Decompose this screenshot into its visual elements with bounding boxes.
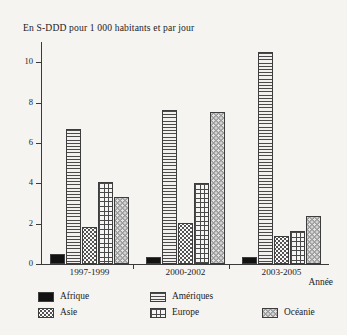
y-axis-tick-label: 8 [29, 97, 33, 108]
bar [82, 227, 97, 264]
legend-item-asie: Asie [38, 307, 77, 318]
bar [50, 254, 65, 264]
chart-title: En S-DDD pour 1 000 habitants et par jou… [23, 22, 194, 33]
bar-series-container [41, 42, 329, 265]
bar [306, 216, 321, 264]
legend-label: Europe [172, 307, 199, 318]
legend-swatch-icon [150, 292, 166, 302]
y-axis-tick-label: 10 [24, 56, 33, 67]
bar [242, 257, 257, 264]
legend-item-europe: Europe [150, 307, 199, 318]
bar [178, 223, 193, 264]
bar [258, 52, 273, 264]
legend-label: Afrique [60, 291, 89, 302]
bar [114, 197, 129, 264]
x-axis-title: Année [309, 277, 333, 287]
legend-swatch-icon [150, 308, 166, 318]
x-axis-category-label: 2003-2005 [262, 267, 302, 277]
y-axis-tick-label: 0 [29, 258, 33, 269]
x-axis-tick [133, 265, 134, 269]
chart-legend: AfriqueAmériquesAsieEuropeOcéanie [0, 291, 347, 331]
chart-page: En S-DDD pour 1 000 habitants et par jou… [0, 0, 347, 335]
x-axis-tick [229, 265, 230, 269]
y-axis-tick-label: 4 [29, 177, 33, 188]
x-axis-category-label: 2000-2002 [166, 267, 206, 277]
bar [146, 257, 161, 264]
x-axis-category-label: 1997-1999 [70, 267, 110, 277]
legend-label: Amériques [172, 291, 213, 302]
legend-swatch-icon [38, 292, 54, 302]
legend-swatch-icon [262, 308, 278, 318]
bar [210, 112, 225, 264]
legend-item-amriques: Amériques [150, 291, 213, 302]
bar [98, 182, 113, 264]
bar [162, 110, 177, 264]
bar [194, 183, 209, 264]
bar [274, 236, 289, 264]
legend-item-afrique: Afrique [38, 291, 89, 302]
legend-label: Asie [60, 307, 77, 318]
legend-label: Océanie [284, 307, 315, 318]
plot-area: 0246810 [41, 42, 329, 265]
y-axis-tick-label: 2 [29, 218, 33, 229]
legend-swatch-icon [38, 308, 54, 318]
bar [66, 129, 81, 264]
legend-item-ocanie: Océanie [262, 307, 315, 318]
bar [290, 231, 305, 264]
y-axis-tick-label: 6 [29, 137, 33, 148]
